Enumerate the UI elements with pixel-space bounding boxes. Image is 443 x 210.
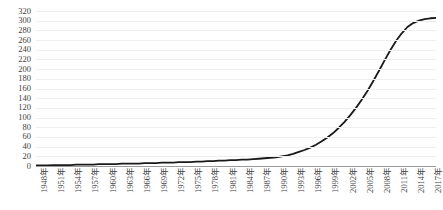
gridline [36, 147, 436, 148]
x-axis-tick-label: 1987年 [263, 167, 272, 193]
x-axis-tick-text: 1975年 [194, 167, 203, 193]
x-axis-tick-text: 1999年 [331, 167, 340, 193]
x-axis-tick-text: 1981年 [229, 167, 238, 193]
x-axis-tick-label: 1951年 [57, 167, 66, 193]
x-axis-tick-text: 2002年 [349, 167, 358, 193]
x-axis-tick-label: 1996年 [314, 167, 323, 193]
y-axis-tick-label: 300 [18, 16, 31, 25]
x-axis-tick-text: 2008年 [383, 167, 392, 193]
y-axis-tick-label: 160 [18, 84, 31, 93]
y-axis-tick-label: 40 [23, 142, 32, 151]
x-axis-tick-label: 1984年 [246, 167, 255, 193]
x-axis-tick-label: 1993年 [297, 167, 306, 193]
x-axis-tick-text: 2005年 [366, 167, 375, 193]
chart-title-clipped [0, 0, 440, 6]
x-axis-tick-text: 1969年 [160, 167, 169, 193]
y-axis-tick-label: 180 [18, 74, 31, 83]
x-axis-tick-label: 1963年 [126, 167, 135, 193]
x-axis-tick-label: 2011年 [400, 167, 409, 193]
x-axis-tick-text: 1963年 [126, 167, 135, 193]
x-axis-tick-text: 2011年 [400, 167, 409, 193]
x-axis-tick-label: 1957年 [91, 167, 100, 193]
gridline [36, 69, 436, 70]
y-axis-tick-label: 60 [23, 132, 32, 141]
y-axis-tick-label: 20 [23, 152, 32, 161]
y-axis-tick-label: 280 [18, 26, 31, 35]
x-axis-tick-text: 1966年 [143, 167, 152, 193]
x-axis-tick-label: 2002年 [349, 167, 358, 193]
y-axis-tick-label: 100 [18, 113, 31, 122]
x-axis-tick-text: 1954年 [74, 167, 83, 193]
x-axis-tick-text: 2014年 [417, 167, 426, 193]
x-axis-tick-text: 1978年 [211, 167, 220, 193]
x-axis-tick-text: 1996年 [314, 167, 323, 193]
x-axis-tick-text: 1987年 [263, 167, 272, 193]
x-axis-tick-label: 1999年 [331, 167, 340, 193]
gridline [36, 127, 436, 128]
x-axis-tick-label: 1981年 [229, 167, 238, 193]
x-axis-tick-label: 1972年 [177, 167, 186, 193]
x-axis-tick-label: 1948年 [40, 167, 49, 193]
plot-area [36, 11, 436, 166]
y-axis-tick-label: 140 [18, 94, 31, 103]
gridline [36, 137, 436, 138]
y-axis-tick-label: 0 [27, 162, 31, 171]
x-axis-tick-label: 1966年 [143, 167, 152, 193]
gridline [36, 30, 436, 31]
y-axis-tick-label: 240 [18, 45, 31, 54]
x-axis-tick-text: 1951年 [57, 167, 66, 193]
x-axis-tick-text: 1993年 [297, 167, 306, 193]
gridline [36, 59, 436, 60]
x-axis-tick-label: 1978年 [211, 167, 220, 193]
x-axis-tick-text: 1990年 [280, 167, 289, 193]
gridline [36, 118, 436, 119]
x-axis-tick-text: 1984年 [246, 167, 255, 193]
gridline [36, 89, 436, 90]
x-axis-tick-label: 2014年 [417, 167, 426, 193]
x-axis-tick-label: 2005年 [366, 167, 375, 193]
gridline [36, 40, 436, 41]
y-axis-tick-label: 220 [18, 55, 31, 64]
y-axis-tick-label: 120 [18, 103, 31, 112]
y-axis-tick-label: 200 [18, 65, 31, 74]
x-axis-tick-label: 1960年 [109, 167, 118, 193]
y-axis-tick-label: 80 [23, 123, 32, 132]
y-axis: 3203002802602402202001801601401201008060… [0, 0, 34, 210]
x-axis-tick-text: 2017年 [434, 167, 443, 193]
gridline [36, 98, 436, 99]
x-axis-tick-text: 1960年 [109, 167, 118, 193]
x-axis-tick-label: 1975年 [194, 167, 203, 193]
x-axis-tick-text: 1957年 [91, 167, 100, 193]
gridline [36, 156, 436, 157]
x-axis-tick-text: 1972年 [177, 167, 186, 193]
gridline [36, 108, 436, 109]
x-axis-tick-label: 2008年 [383, 167, 392, 193]
gridline [36, 21, 436, 22]
x-axis-tick-label: 1990年 [280, 167, 289, 193]
gridline [36, 11, 436, 12]
x-axis-tick-text: 1948年 [40, 167, 49, 193]
y-axis-tick-label: 320 [18, 7, 31, 16]
x-axis-tick-label: 1969年 [160, 167, 169, 193]
gridline [36, 79, 436, 80]
y-axis-tick-label: 260 [18, 36, 31, 45]
gridline [36, 50, 436, 51]
x-axis: 1948年1951年1954年1957年1960年1963年1966年1969年… [36, 167, 436, 210]
x-axis-tick-label: 2017年 [434, 167, 443, 193]
x-axis-tick-label: 1954年 [74, 167, 83, 193]
